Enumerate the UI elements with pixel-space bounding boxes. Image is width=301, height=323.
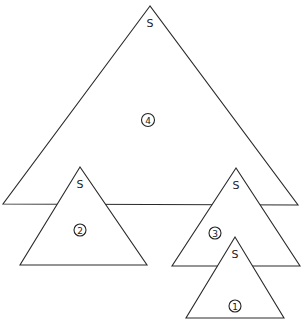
triangle-4: S4 (3, 6, 298, 205)
triangles-diagram: S4S2S3S1 (0, 0, 301, 323)
apex-label: S (147, 17, 154, 30)
triangle-number-label: 3 (212, 229, 218, 239)
apex-label: S (77, 178, 84, 191)
triangle-number-label: 1 (232, 302, 238, 312)
triangle-number-label: 2 (77, 226, 83, 236)
triangle-shape (3, 6, 298, 205)
apex-label: S (233, 179, 240, 192)
triangle-number-label: 4 (145, 116, 151, 126)
apex-label: S (232, 248, 239, 261)
